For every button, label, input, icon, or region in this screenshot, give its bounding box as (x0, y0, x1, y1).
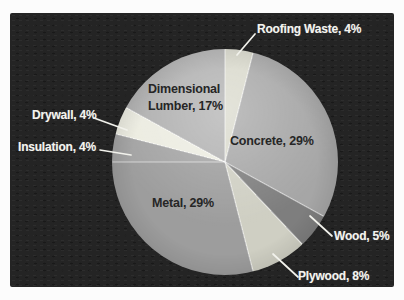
chart-plot-area: Roofing Waste, 4% Drywall, 4% Insulation… (10, 13, 394, 287)
label-drywall: Drywall, 4% (32, 108, 97, 122)
label-concrete: Concrete, 29% (230, 134, 314, 148)
label-roofing-waste: Roofing Waste, 4% (257, 22, 361, 36)
label-wood: Wood, 5% (334, 229, 390, 243)
label-dimensional-lumber: Dimensional Lumber, 17% (148, 81, 218, 114)
pie (112, 49, 338, 275)
label-dimensional-lumber-line2: Lumber, 17% (148, 98, 218, 115)
label-dimensional-lumber-line1: Dimensional (148, 81, 218, 98)
label-plywood: Plywood, 8% (298, 269, 369, 283)
label-metal: Metal, 29% (152, 196, 214, 210)
label-insulation: Insulation, 4% (18, 140, 96, 154)
pie-chart-figure: Roofing Waste, 4% Drywall, 4% Insulation… (0, 0, 404, 300)
